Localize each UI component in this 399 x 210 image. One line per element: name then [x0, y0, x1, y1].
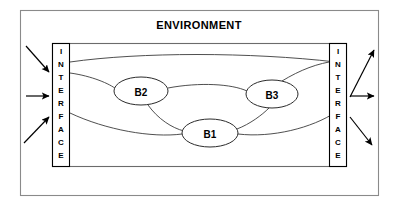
system-boundary	[53, 44, 347, 167]
interface-left-letter: E	[58, 151, 64, 160]
interface-right-letter: E	[335, 151, 341, 160]
interface-left-letter: C	[58, 138, 64, 147]
interface-right-letter: C	[335, 138, 341, 147]
interface-right-letter: F	[336, 112, 341, 121]
interface-left-letter: T	[59, 73, 64, 82]
node-b2[interactable]: B2	[114, 77, 168, 105]
input-arrow-diagonal-up	[24, 117, 49, 143]
input-arrows	[24, 46, 49, 143]
input-arrow-diagonal-down	[26, 46, 49, 72]
interface-left-letter: A	[58, 125, 64, 134]
node-b1[interactable]: B1	[182, 119, 238, 147]
interface-right-letter: N	[335, 60, 341, 69]
node-b3-label: B3	[266, 90, 279, 101]
interface-right[interactable]: I N T E R F A C E	[330, 44, 347, 167]
node-b3[interactable]: B3	[246, 80, 298, 108]
diagram-canvas: ENVIRONMENT I N T E	[0, 0, 399, 210]
node-b1-label: B1	[204, 129, 217, 140]
interface-right-letter: A	[335, 125, 341, 134]
interface-right-letter: R	[335, 99, 341, 108]
interface-left-letter: F	[59, 112, 64, 121]
interface-left-letter: N	[58, 60, 64, 69]
interface-right-letter: T	[336, 73, 341, 82]
output-arrows	[350, 50, 374, 145]
output-arrow-diagonal-up	[350, 50, 374, 97]
interface-right-letter: I	[337, 47, 339, 56]
interface-left-letter: E	[58, 86, 64, 95]
output-arrow-diagonal-down	[350, 117, 372, 145]
page-title: ENVIRONMENT	[156, 19, 242, 31]
interface-left-letter: R	[58, 99, 64, 108]
interface-left-letter: I	[60, 47, 62, 56]
interface-left[interactable]: I N T E R F A C E	[53, 44, 70, 167]
node-b2-label: B2	[135, 87, 148, 98]
interface-right-letter: E	[335, 86, 341, 95]
